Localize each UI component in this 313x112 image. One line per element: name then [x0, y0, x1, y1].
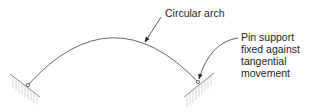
right-pin-icon — [196, 80, 199, 83]
left-pin-support — [10, 74, 40, 105]
circular-arch — [28, 38, 198, 85]
pin-label-line-2: fixed against — [241, 43, 300, 55]
pin-leader-arrow — [199, 38, 238, 79]
left-ground-hatching — [13, 77, 37, 105]
pin-label-line-4: movement — [241, 67, 300, 79]
arch-leader-arrow — [145, 17, 161, 42]
pin-support-label: Pin support fixed against tangential mov… — [241, 31, 300, 79]
pin-label-line-3: tangential — [241, 55, 300, 67]
left-pin-icon — [26, 83, 29, 86]
pin-label-line-1: Pin support — [241, 31, 300, 43]
circular-arch-label: Circular arch — [165, 7, 225, 19]
